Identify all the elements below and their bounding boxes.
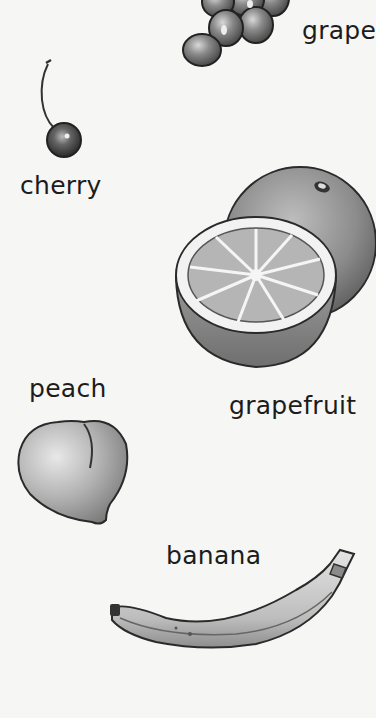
grape-label: grape (302, 18, 376, 43)
cherry-icon (36, 60, 96, 160)
grapefruit-label: grapefruit (229, 393, 356, 418)
peach-label: peach (29, 376, 107, 401)
grapefruit-icon (172, 155, 372, 375)
cherry-label: cherry (20, 173, 102, 198)
peach-icon (14, 414, 132, 528)
banana-icon (106, 542, 362, 652)
grapes-icon (178, 0, 298, 70)
